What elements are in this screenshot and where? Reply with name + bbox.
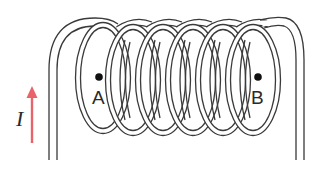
coil-loop-1 [76, 23, 131, 134]
coil-loop-3 [136, 25, 191, 136]
point-b-label: B [251, 88, 264, 107]
coil-loop-4 [166, 25, 221, 136]
current-label: I [16, 108, 23, 130]
point-a-label: A [92, 88, 105, 107]
point-a-dot [95, 73, 103, 81]
solenoid-diagram: A B I [0, 0, 322, 171]
coil-loop-5 [196, 25, 251, 136]
coil-loop-6 [226, 25, 281, 136]
coil-front-loops [76, 23, 281, 136]
coil-loop-2 [106, 25, 161, 136]
current-arrow-icon [27, 86, 38, 143]
coil-drawing [0, 0, 322, 171]
point-b-dot [254, 73, 262, 81]
